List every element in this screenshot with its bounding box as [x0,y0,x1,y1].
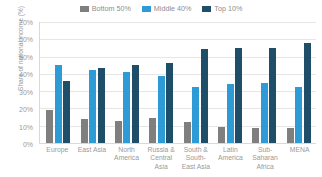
legend-item-top-10[interactable]: Top 10% [202,5,242,13]
y-axis-tick-label: 60% [19,36,33,43]
bar-group [179,22,213,143]
x-axis-label: South & South-East Asia [179,146,214,171]
bar[interactable] [63,81,70,143]
bar-group [247,22,281,143]
legend-swatch-bottom-50 [80,6,89,12]
legend-label-middle-40: Middle 40% [154,5,192,13]
bar-group [110,22,144,143]
bar[interactable] [252,128,259,143]
x-axis-label: Europe [40,146,75,171]
x-axis-label: Sub-Saharan Africa [248,146,283,171]
legend-item-bottom-50[interactable]: Bottom 50% [80,5,131,13]
bar[interactable] [132,65,139,143]
x-axis-label: Russia & Central Asia [144,146,179,171]
bar-group [213,22,247,143]
y-axis-tick-label: 10% [19,123,33,130]
bar[interactable] [192,87,199,143]
y-axis-tick-label: 20% [19,106,33,113]
legend-label-top-10: Top 10% [214,5,242,13]
bar-group [41,22,75,143]
bar[interactable] [261,83,268,144]
bar-group [282,22,316,143]
bar[interactable] [98,68,105,143]
bar[interactable] [166,63,173,143]
bar-chart: Bottom 50% Middle 40% Top 10% Share of n… [0,0,322,177]
y-axis-tick-label: 70% [19,19,33,26]
legend-item-middle-40[interactable]: Middle 40% [142,5,192,13]
bar[interactable] [81,119,88,143]
bar[interactable] [184,122,191,143]
bar-groups [41,22,316,143]
chart-legend: Bottom 50% Middle 40% Top 10% [0,3,322,14]
y-axis-tick-label: 30% [19,88,33,95]
x-axis-label: East Asia [75,146,110,171]
bar[interactable] [123,72,130,143]
y-axis-ticks: 70%60%50%40%30%20%10%0% [0,22,36,144]
y-axis-tick-label: 40% [19,71,33,78]
bar[interactable] [158,76,165,143]
bar[interactable] [295,87,302,143]
y-axis-tick-label: 50% [19,53,33,60]
bar-group [75,22,109,143]
legend-swatch-middle-40 [142,6,151,12]
legend-label-bottom-50: Bottom 50% [92,5,131,13]
bar[interactable] [201,49,208,143]
bar[interactable] [149,118,156,143]
bar[interactable] [218,127,225,143]
x-axis-labels: EuropeEast AsiaNorth AmericaRussia & Cen… [40,146,317,171]
x-axis-label: North America [109,146,144,171]
bar[interactable] [55,65,62,143]
bar[interactable] [235,48,242,143]
x-axis-label: Latin America [213,146,248,171]
bar-group [144,22,178,143]
bar[interactable] [46,110,53,143]
plot-area [39,22,316,144]
bar[interactable] [269,48,276,143]
bar[interactable] [115,121,122,143]
bar[interactable] [89,70,96,143]
x-axis-label: MENA [282,146,317,171]
bar[interactable] [304,43,311,143]
bar[interactable] [227,84,234,143]
y-axis-tick-label: 0% [23,141,33,148]
legend-swatch-top-10 [202,6,211,12]
bar[interactable] [287,128,294,143]
